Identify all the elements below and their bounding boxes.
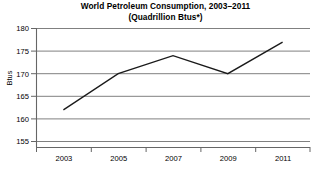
xtick-label: 2003 [55, 154, 72, 163]
xtick-label: 2005 [110, 154, 127, 163]
y-axis-tick-labels: 180 175 170 165 160 155 [16, 24, 29, 146]
data-series-line [63, 42, 282, 110]
y-axis-ticks [31, 29, 36, 142]
ytick-label: 160 [16, 115, 29, 124]
xtick-label: 2011 [275, 154, 291, 163]
ytick-label: 175 [16, 47, 29, 56]
ytick-label: 180 [16, 24, 29, 33]
x-axis-tick-labels: 2003 2005 2007 2009 2011 [55, 154, 291, 163]
xtick-label: 2007 [165, 154, 182, 163]
ytick-label: 165 [16, 92, 29, 101]
ytick-label: 170 [16, 70, 29, 79]
gridlines [36, 29, 310, 142]
ytick-label: 155 [16, 137, 29, 146]
plot-area: 180 175 170 165 160 155 2003 2005 2007 2… [0, 0, 331, 177]
chart-container: World Petroleum Consumption, 2003–2011 (… [0, 0, 331, 177]
xtick-label: 2009 [220, 154, 237, 163]
